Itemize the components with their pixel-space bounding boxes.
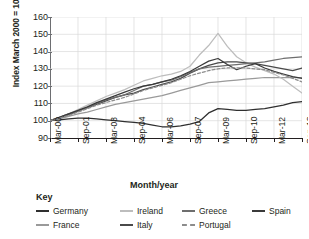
- y-tick-mark: [48, 17, 52, 18]
- y-tick-label: 90: [22, 134, 48, 143]
- series-line-greece: [50, 57, 302, 121]
- y-tick-mark: [48, 103, 52, 104]
- x-tick-label: Sep-04: [138, 117, 147, 144]
- y-tick-mark: [48, 69, 52, 70]
- legend: Key GermanyIrelandGreeceSpainFranceItaly…: [0, 192, 308, 239]
- legend-label: Germany: [53, 206, 88, 216]
- legend-swatch-icon: [182, 210, 195, 212]
- series-line-france: [50, 78, 302, 121]
- y-tick-mark: [48, 34, 52, 35]
- x-tick-label: Mar-09: [222, 117, 231, 144]
- legend-entry-spain[interactable]: Spain: [252, 206, 291, 216]
- y-axis-tick-labels: 90100110120130140150160: [18, 0, 48, 182]
- figure-container: Index March 2000 = 100 90100110120130140…: [0, 0, 308, 239]
- x-tick-label: Mar-06: [166, 117, 175, 144]
- line-chart: Index March 2000 = 100 90100110120130140…: [0, 0, 308, 182]
- legend-label: Italy: [137, 220, 153, 230]
- x-tick-mark: [106, 138, 107, 142]
- legend-label: Spain: [269, 206, 291, 216]
- legend-label: Ireland: [137, 206, 163, 216]
- y-tick-mark: [48, 52, 52, 53]
- y-tick-mark: [48, 121, 52, 122]
- x-tick-label: Sep-01: [82, 117, 91, 144]
- legend-label: France: [53, 220, 79, 230]
- x-tick-mark: [50, 138, 51, 142]
- x-tick-mark: [134, 138, 135, 142]
- legend-label: Portugal: [199, 220, 231, 230]
- legend-entry-ireland[interactable]: Ireland: [120, 206, 163, 216]
- legend-swatch-icon: [36, 210, 49, 212]
- x-tick-mark: [274, 138, 275, 142]
- x-tick-label: Mar-12: [278, 117, 287, 144]
- y-tick-label: 130: [22, 64, 48, 73]
- y-tick-label: 100: [22, 116, 48, 125]
- x-tick-mark: [302, 138, 303, 142]
- x-tick-mark: [246, 138, 247, 142]
- legend-title: Key: [36, 192, 53, 202]
- legend-entry-portugal[interactable]: Portugal: [182, 220, 231, 230]
- x-tick-mark: [162, 138, 163, 142]
- legend-swatch-icon: [36, 224, 49, 226]
- x-axis-label: Month/year: [0, 180, 308, 190]
- legend-label: Greece: [199, 206, 227, 216]
- y-tick-label: 150: [22, 30, 48, 39]
- x-tick-label: Sep-10: [250, 117, 259, 144]
- x-tick-label: Mar-03: [110, 117, 119, 144]
- legend-entry-greece[interactable]: Greece: [182, 206, 227, 216]
- legend-swatch-icon: [120, 224, 133, 226]
- series-line-portugal: [50, 68, 302, 121]
- legend-entry-germany[interactable]: Germany: [36, 206, 88, 216]
- y-tick-mark: [48, 86, 52, 87]
- legend-entry-france[interactable]: France: [36, 220, 79, 230]
- legend-swatch-icon: [182, 224, 195, 226]
- y-tick-label: 160: [22, 13, 48, 22]
- x-tick-label: Sep-07: [194, 117, 203, 144]
- y-tick-label: 120: [22, 82, 48, 91]
- y-tick-label: 110: [22, 99, 48, 108]
- x-tick-mark: [190, 138, 191, 142]
- x-tick-mark: [78, 138, 79, 142]
- legend-swatch-icon: [252, 210, 265, 212]
- x-tick-label: Mar-00: [54, 117, 63, 144]
- x-tick-label: Sep-13: [306, 117, 309, 144]
- x-tick-mark: [218, 138, 219, 142]
- legend-swatch-icon: [120, 210, 133, 212]
- legend-entry-italy[interactable]: Italy: [120, 220, 153, 230]
- y-tick-label: 140: [22, 47, 48, 56]
